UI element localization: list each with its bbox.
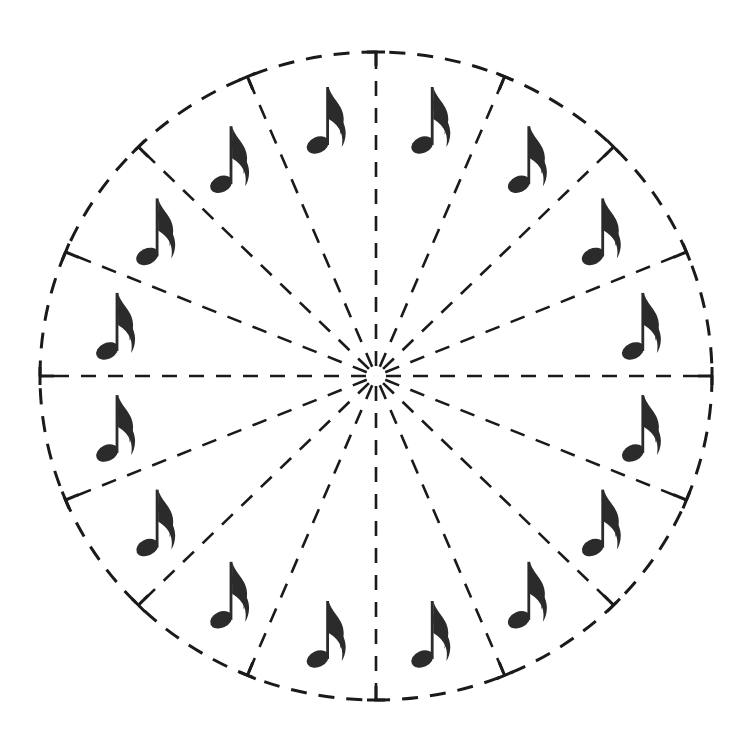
- wheel: [40, 52, 712, 700]
- sixteenth-note-icon: [408, 601, 450, 671]
- tick-stem: [66, 495, 79, 500]
- tick-stem: [247, 662, 252, 675]
- sixteenth-note-icon: [133, 198, 175, 268]
- spoke-line: [247, 77, 372, 367]
- spoke-line: [385, 380, 686, 500]
- spoke-line: [138, 147, 369, 369]
- tick-stem: [673, 252, 686, 257]
- tick-stem: [604, 147, 614, 157]
- sixteenth-note-icon: [505, 126, 547, 196]
- spoke-line: [247, 385, 372, 675]
- sixteenth-note-icon: [505, 562, 547, 632]
- tick-stem: [66, 252, 79, 257]
- tick-stem: [138, 147, 148, 157]
- sixteenth-note-icon: [579, 490, 621, 560]
- tick-stem: [604, 595, 614, 605]
- sixteenth-note-icon: [207, 562, 249, 632]
- tick-stem: [499, 662, 504, 675]
- spoke-line: [383, 147, 614, 369]
- tick-stem: [673, 495, 686, 500]
- sixteenth-note-icon: [133, 490, 175, 560]
- sixteenth-note-icon: [304, 87, 346, 157]
- sixteenth-note-icon: [207, 126, 249, 196]
- spoke-line: [138, 383, 369, 605]
- sixteenth-note-icon: [304, 601, 346, 671]
- tick-stem: [247, 77, 252, 90]
- sixteenth-note-icon: [579, 198, 621, 268]
- sixteenth-note-icon: [408, 87, 450, 157]
- sixteenth-note-icon: [93, 293, 135, 363]
- sixteenth-note-icon: [619, 395, 661, 465]
- spoke-line: [66, 380, 367, 500]
- spoke-line: [383, 383, 614, 605]
- sixteenth-note-icon: [619, 293, 661, 363]
- tick-stem: [138, 595, 148, 605]
- music-note-wheel: [0, 0, 748, 750]
- tick-stem: [499, 77, 504, 90]
- sixteenth-note-icon: [93, 395, 135, 465]
